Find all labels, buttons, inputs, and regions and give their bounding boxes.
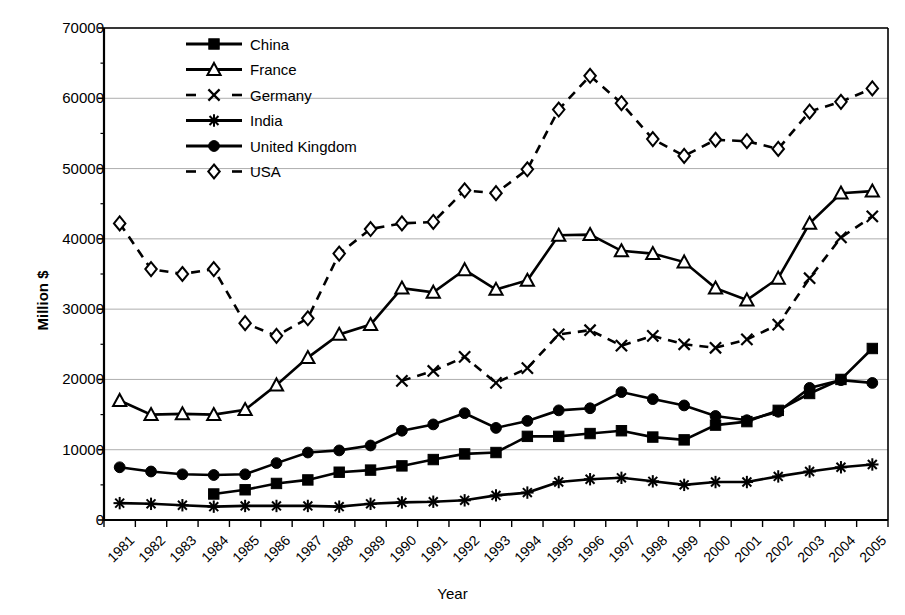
series-marker [459,449,469,459]
series-marker [239,316,250,330]
legend-item-united-kingdom: United Kingdom [186,138,357,155]
legend-item-france: France [186,61,297,78]
series-marker [271,478,281,488]
series-marker [240,469,251,480]
series-france [113,184,879,420]
series-marker [522,415,533,426]
series-marker [271,329,282,343]
series-marker [867,378,878,389]
series-marker [334,467,344,477]
data-series-layer [113,69,879,513]
series-united-kingdom [114,375,877,481]
chart-legend: ChinaFranceGermanyIndiaUnited KingdomUSA [186,36,357,181]
series-marker [741,134,752,148]
series-marker [428,419,439,430]
legend-item-germany: Germany [186,87,312,104]
series-marker [491,423,502,434]
series-marker [208,470,219,481]
series-marker [428,454,438,464]
series-line [120,191,873,415]
series-marker [647,394,658,405]
series-marker [209,489,219,499]
series-marker [804,382,815,393]
series-marker [585,403,596,414]
series-marker [710,133,721,147]
series-marker [553,405,564,416]
series-marker [836,375,847,386]
series-marker [491,447,501,457]
legend-label: USA [250,163,281,180]
series-marker [397,425,408,436]
series-marker [678,149,689,163]
legend-label: India [250,112,283,129]
series-marker [113,394,126,406]
gridlines [104,28,888,450]
series-marker [867,343,877,353]
series-marker [302,311,313,325]
series-marker [365,222,376,236]
series-line [214,349,873,495]
series-marker [396,216,407,230]
series-marker [616,387,627,398]
series-germany [396,211,878,389]
series-marker [616,426,626,436]
series-marker [867,81,878,95]
series-marker [554,431,564,441]
series-marker [804,105,815,119]
chart-figure: Million $ Year 0100002000030000400005000… [0,0,905,615]
series-marker [114,462,125,473]
series-marker [177,267,188,281]
series-marker [710,411,721,422]
legend-label: France [250,61,297,78]
series-line [120,76,873,336]
series-marker [365,465,375,475]
series-marker [303,475,313,485]
series-marker [490,186,501,200]
series-marker [741,415,752,426]
series-marker [333,247,344,261]
plot-area: ChinaFranceGermanyIndiaUnited KingdomUSA [0,0,905,615]
series-marker [302,447,313,458]
series-marker [177,469,188,480]
series-india [113,458,878,513]
series-marker [459,408,470,419]
series-marker [365,440,376,451]
series-marker [146,466,157,477]
series-marker [334,445,345,456]
legend-item-india: India [186,112,283,129]
legend-item-usa: USA [186,163,281,180]
series-marker [208,262,219,276]
series-usa [114,69,878,343]
series-marker [648,432,658,442]
series-line [402,216,872,383]
legend-label: China [250,36,290,53]
legend-marker [209,39,219,49]
legend-label: United Kingdom [250,138,357,155]
series-marker [835,95,846,109]
series-marker [772,272,785,284]
legend-item-china: China [186,36,290,53]
legend-marker [208,165,219,179]
legend-label: Germany [250,87,312,104]
series-marker [773,406,784,417]
series-marker [240,485,250,495]
series-marker [585,428,595,438]
legend-marker [209,141,220,152]
series-marker [679,400,690,411]
series-marker [679,435,689,445]
series-marker [397,461,407,471]
series-marker [458,263,471,275]
axis-frame [104,28,888,520]
series-marker [522,431,532,441]
series-marker [271,458,282,469]
